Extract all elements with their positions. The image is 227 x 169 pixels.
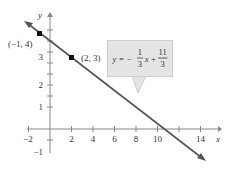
- y-tick-label: 1: [39, 102, 44, 112]
- fraction-numerator: 1: [138, 47, 142, 57]
- x-tick-label: 2: [69, 134, 74, 144]
- x-tick-label: 10: [153, 134, 163, 144]
- x-tick-label: 4: [91, 134, 96, 144]
- x-tick-label: 8: [134, 134, 139, 144]
- equation-prefix: y = −: [112, 54, 133, 64]
- y-axis: [47, 12, 53, 153]
- point-label: (−1, 4): [8, 39, 33, 49]
- fraction-denominator: 3: [161, 59, 165, 69]
- y-tick-label: 2: [39, 80, 44, 90]
- equation-callout: y = − 1 3 x + 11 3: [107, 40, 173, 77]
- x-axis-label: x: [215, 134, 220, 144]
- fraction-numerator: 11: [159, 47, 167, 57]
- y-tick-label: −1: [33, 147, 43, 157]
- x-tick-label: 6: [112, 134, 117, 144]
- point-2-3: [69, 55, 74, 60]
- y-axis-label: y: [37, 10, 42, 20]
- point-label: (2, 3): [81, 53, 101, 63]
- x-tick-label: −2: [23, 134, 33, 144]
- y-tick-label: 3: [39, 52, 44, 62]
- x-axis: [27, 126, 222, 132]
- fraction-denominator: 3: [138, 59, 142, 69]
- x-tick-label: 14: [196, 134, 206, 144]
- callout-pointer: [132, 76, 146, 93]
- graph-canvas: −2 2 4 6 8 10 14 x −1 1 2 3 y (−1, 4) (2…: [0, 0, 227, 169]
- equation-x: x +: [144, 54, 157, 64]
- point-minus1-4: [37, 31, 42, 36]
